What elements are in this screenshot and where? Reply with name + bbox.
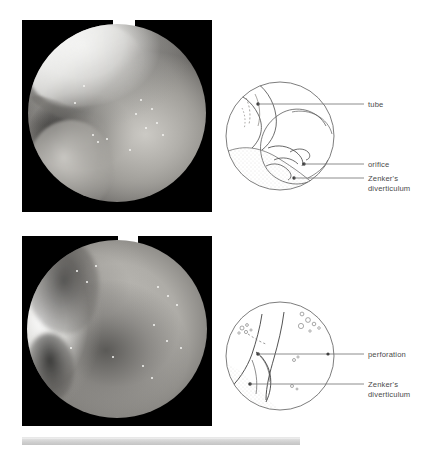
- endoscopic-photo-perforation: [22, 236, 212, 426]
- mucosal-speck: [157, 286, 159, 288]
- line-diagram-perforation: perforation Zenker's diverticulum: [222, 294, 434, 424]
- label-perforation: perforation: [368, 350, 406, 359]
- perforation-marker-dot: [326, 352, 329, 355]
- mucosal-speck: [106, 138, 108, 140]
- endoscope-circular-field: [27, 240, 207, 418]
- label-diverticulum: diverticulum: [368, 184, 410, 193]
- mucosal-speck: [180, 347, 182, 349]
- mucosal-speck: [142, 365, 144, 367]
- endoscopic-photo-zenker-with-tube: [22, 20, 212, 212]
- mucosal-speck: [176, 304, 178, 306]
- mucosal-speck: [145, 127, 147, 129]
- mucosal-speck: [129, 149, 131, 151]
- mucosa-surface-right: [28, 120, 113, 202]
- caption-rule: [22, 437, 300, 445]
- mucosal-speck: [156, 122, 158, 124]
- specular-glare: [27, 400, 58, 416]
- label-orifice: orifice: [368, 160, 389, 169]
- mucosal-speck: [135, 113, 137, 115]
- mucosal-speck: [166, 340, 168, 342]
- mucosal-speck: [162, 134, 164, 136]
- label-zenkers: Zenker's: [368, 380, 398, 389]
- mucosal-speck: [112, 356, 114, 358]
- endoscope-circular-field: [28, 24, 206, 202]
- mucosal-speck: [151, 377, 153, 379]
- mucosal-speck: [95, 265, 97, 267]
- line-diagram-zenker-with-tube: tube orifice Zenker's diverticulum: [222, 74, 434, 204]
- mucosal-speck: [76, 270, 78, 272]
- label-diverticulum: diverticulum: [368, 390, 410, 399]
- mucosal-shadow-band: [27, 240, 105, 337]
- mucosal-speck: [70, 347, 72, 349]
- label-zenkers: Zenker's: [368, 174, 398, 183]
- mucosal-speck: [83, 85, 85, 87]
- mucosal-speck: [140, 99, 142, 101]
- mucosal-speck: [151, 108, 153, 110]
- figure-root: tube orifice Zenker's diverticulum: [0, 0, 434, 449]
- diverticulum-opening-shadow: [27, 330, 77, 402]
- mucosal-speck: [167, 295, 169, 297]
- mucosal-speck: [153, 324, 155, 326]
- label-tube: tube: [368, 100, 383, 109]
